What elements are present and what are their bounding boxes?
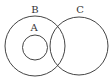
venn-diagram: B A C	[0, 0, 110, 77]
set-c-circle	[50, 17, 108, 75]
set-a-label: A	[29, 22, 38, 33]
set-a-circle	[23, 35, 48, 60]
set-b-label: B	[31, 4, 38, 15]
set-c-label: C	[76, 4, 84, 15]
